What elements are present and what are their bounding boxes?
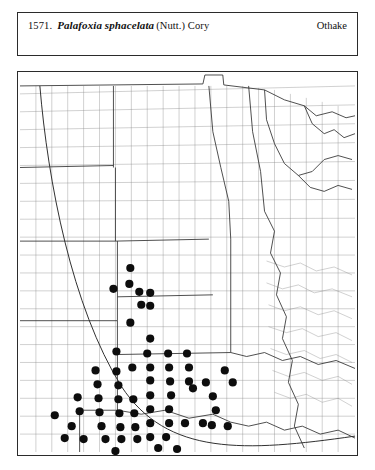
occurrence-dot	[167, 391, 175, 399]
occurrence-dot	[208, 421, 216, 429]
occurrence-dot	[115, 409, 123, 417]
occurrence-dot	[114, 395, 122, 403]
occurrence-dot	[146, 335, 154, 343]
occurrence-dot	[129, 395, 137, 403]
occurrence-dot	[146, 391, 154, 399]
occurrence-dot	[94, 394, 102, 402]
occurrence-dot	[133, 435, 141, 443]
occurrence-dot	[165, 405, 173, 413]
occurrence-dot	[95, 408, 103, 416]
occurrence-dot	[116, 423, 124, 431]
occurrence-dot	[165, 419, 173, 427]
entry-number: 1571.	[28, 20, 52, 31]
occurrence-dot	[101, 435, 109, 443]
occurrence-dot	[146, 363, 154, 371]
occurrence-dot	[131, 423, 139, 431]
occurrence-dot	[61, 434, 69, 442]
occurrence-dot	[166, 377, 174, 385]
occurrence-dot	[135, 288, 143, 296]
occurrence-dot	[111, 447, 119, 455]
common-name: Othake	[317, 20, 347, 31]
occurrence-dot	[185, 363, 193, 371]
occurrence-dot	[154, 444, 162, 452]
distribution-map-frame	[17, 71, 358, 456]
taxon-authority: (Nutt.) Cory	[156, 20, 209, 31]
occurrence-dot	[221, 366, 229, 374]
occurrence-dot	[97, 422, 105, 430]
occurrence-dot	[146, 405, 154, 413]
occurrence-dot	[212, 406, 220, 414]
occurrence-dot	[130, 409, 138, 417]
occurrence-dot	[165, 363, 173, 371]
occurrence-dot	[76, 407, 84, 415]
occurrence-dot	[173, 445, 181, 453]
occurrence-dot	[74, 393, 82, 401]
occurrence-dot	[93, 380, 101, 388]
scientific-name: Palafoxia sphacelata	[52, 19, 156, 31]
occurrence-dot	[146, 376, 154, 384]
occurrence-dot	[112, 367, 120, 375]
occurrence-dot	[181, 419, 189, 427]
atlas-page: 1571.Palafoxia sphacelata(Nutt.) Cory Ot…	[0, 0, 375, 470]
occurrence-dot	[126, 264, 134, 272]
occurrence-dot	[146, 302, 154, 310]
county-lines	[20, 86, 355, 452]
occurrence-dot	[143, 349, 151, 357]
occurrence-dot	[125, 280, 133, 288]
occurrence-dot	[224, 422, 232, 430]
occurrence-dot	[91, 366, 99, 374]
occurrence-dot-layer	[51, 264, 237, 455]
occurrence-dot	[68, 422, 76, 430]
occurrence-dot	[112, 347, 120, 355]
occurrence-dot	[189, 384, 197, 392]
species-entry: 1571.Palafoxia sphacelata(Nutt.) Cory	[28, 19, 209, 31]
occurrence-dot	[183, 349, 191, 357]
occurrence-dot	[80, 435, 88, 443]
occurrence-dot	[126, 319, 134, 327]
occurrence-dot	[146, 433, 154, 441]
occurrence-dot	[109, 285, 117, 293]
eastern-county-lines	[267, 261, 352, 406]
occurrence-dot	[164, 349, 172, 357]
occurrence-dot	[128, 363, 136, 371]
occurrence-dot	[146, 289, 154, 297]
occurrence-dot	[117, 435, 125, 443]
occurrence-dot	[137, 301, 145, 309]
occurrence-dot	[185, 377, 193, 385]
species-caption-box: 1571.Palafoxia sphacelata(Nutt.) Cory Ot…	[17, 12, 358, 56]
occurrence-dot	[114, 381, 122, 389]
distribution-map	[18, 72, 357, 455]
occurrence-dot	[199, 419, 207, 427]
occurrence-dot	[51, 411, 59, 419]
occurrence-dot	[202, 378, 210, 386]
occurrence-dot	[229, 378, 237, 386]
occurrence-dot	[146, 419, 154, 427]
occurrence-dot	[209, 392, 217, 400]
range-boundary-arc	[40, 86, 355, 446]
occurrence-dot	[162, 433, 170, 441]
caption-row: 1571.Palafoxia sphacelata(Nutt.) Cory Ot…	[28, 19, 347, 31]
